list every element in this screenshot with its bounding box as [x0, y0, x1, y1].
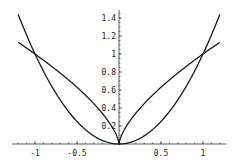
plot-area: -1-0.50.51 0.20.40.60.811.21.4: [0, 0, 237, 164]
y-tick-label: 0.6: [102, 86, 117, 95]
axes: [12, 10, 226, 145]
x-tick-label: 1: [201, 149, 206, 158]
x-tick-label: -0.5: [67, 149, 86, 158]
x-tick-label: 0.5: [154, 149, 169, 158]
y-tick-label: 1.4: [102, 14, 117, 23]
y-tick-label: 1: [111, 50, 116, 59]
y-tick-label: 0.4: [102, 104, 117, 113]
y-tick-label: 0.8: [102, 68, 117, 77]
y-tick-label: 1.2: [102, 32, 117, 41]
x-tick-label: -1: [30, 149, 40, 158]
